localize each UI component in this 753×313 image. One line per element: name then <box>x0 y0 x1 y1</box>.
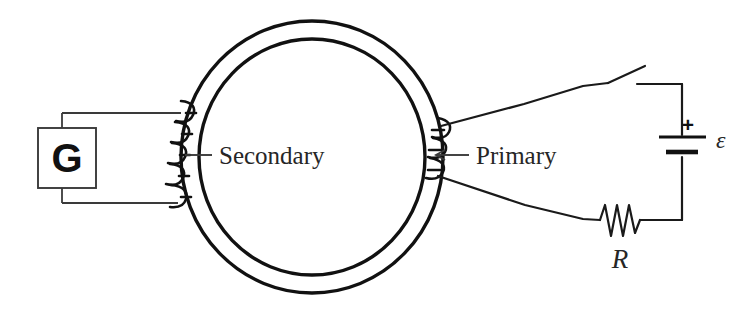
battery-plus-label: + <box>682 113 694 136</box>
battery[interactable]: + ε <box>659 113 726 153</box>
secondary-turn-3 <box>168 143 186 164</box>
emf-label: ε <box>716 127 726 153</box>
secondary-turn-2 <box>171 122 189 143</box>
resistor-zigzag[interactable] <box>600 205 640 236</box>
secondary-label: Secondary <box>219 142 325 169</box>
galvanometer-label: G <box>51 136 82 180</box>
resistor-label: R <box>611 244 629 274</box>
primary-winding-group <box>426 118 450 179</box>
primary-lead-lower <box>438 176 600 220</box>
transformer-circuit-diagram: G Secondary Primary <box>0 0 753 313</box>
physics-diagram-figure: G Secondary Primary <box>0 0 753 313</box>
primary-annotation: Primary <box>436 142 557 169</box>
primary-lead-upper <box>441 83 608 126</box>
galvanometer[interactable]: G <box>38 128 96 188</box>
secondary-annotation: Secondary <box>185 142 325 169</box>
switch[interactable] <box>608 66 682 84</box>
switch-blade[interactable] <box>608 66 645 83</box>
primary-label: Primary <box>476 142 557 169</box>
resistor[interactable]: R <box>600 205 640 274</box>
